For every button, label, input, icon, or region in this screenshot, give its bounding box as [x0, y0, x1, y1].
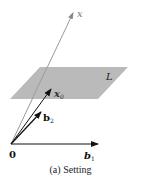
label-plane-L: L: [105, 71, 113, 82]
figure-caption: (a) Setting: [0, 164, 141, 175]
diagram-canvas: x x0 L b2 b1 0: [0, 0, 141, 189]
label-b2: b2: [43, 112, 54, 124]
label-origin: 0: [9, 149, 16, 160]
label-b1: b1: [84, 150, 95, 162]
label-x: x: [77, 8, 83, 19]
setting-diagram: x x0 L b2 b1 0 (a) Setting: [0, 0, 141, 189]
vector-b2: [11, 112, 41, 144]
